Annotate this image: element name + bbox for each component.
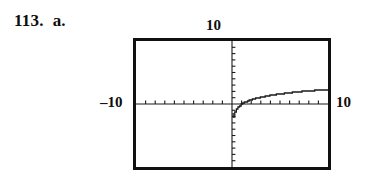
figure-page: 113.a. 10 –10 10 xyxy=(0,0,368,183)
graph-svg xyxy=(136,41,328,167)
exercise-label: 113.a. xyxy=(14,12,66,29)
y-max-label: 10 xyxy=(206,18,221,33)
calculator-screen xyxy=(133,38,331,170)
exercise-part: a. xyxy=(53,11,66,30)
x-max-label: 10 xyxy=(336,95,351,110)
graph-plot-area xyxy=(136,41,328,167)
x-min-label: –10 xyxy=(100,95,123,110)
exercise-number: 113. xyxy=(14,11,44,30)
